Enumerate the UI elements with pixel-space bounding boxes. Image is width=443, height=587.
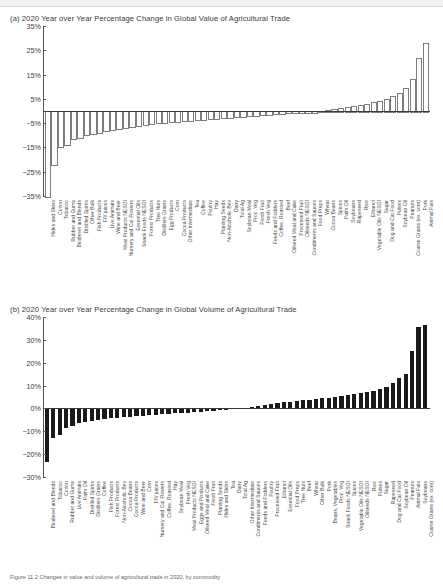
x-tick-label-text: Rapeseed — [356, 200, 362, 223]
x-tick-label-text: Essential Oils — [287, 481, 293, 512]
x-tick-label-text: Palm Oil — [82, 481, 88, 500]
x-tick-label-text: Tree Nuts — [155, 200, 161, 222]
x-tick-label-text: Sugar — [383, 481, 389, 495]
bar — [288, 402, 292, 409]
y-tick-label: 0% — [10, 404, 41, 413]
x-tick-label-text: Total Ag — [242, 481, 248, 499]
chart-a-plot: 35%25%15%5%−5%−15%−25%−35% Hides and Ski… — [10, 26, 430, 281]
bar — [58, 408, 62, 434]
x-tick-label-text: Wine and Beer — [115, 200, 121, 234]
x-tick-label-text: Wine and Beer — [140, 481, 146, 515]
bar — [96, 408, 100, 419]
bar — [391, 383, 395, 408]
y-tick-label: −35% — [10, 192, 41, 201]
bar — [423, 325, 427, 408]
y-tick-mark — [43, 477, 46, 478]
bar — [359, 393, 363, 408]
x-tick-label-text: Feeds and Fodders — [262, 481, 268, 525]
x-tick-label-text: Oilseeds NESOI — [364, 481, 370, 518]
x-tick-label-text: Sugar — [383, 200, 389, 214]
x-tick-label-text: Other Intermediate — [249, 481, 255, 523]
x-tick-label-text: Ethanol — [281, 481, 287, 498]
x-tick-label-text: Non-Alcoholic Bev — [226, 200, 232, 242]
bar — [141, 408, 145, 415]
x-tick-label-text: Distillers Grains — [161, 200, 167, 236]
y-tick-label: 5% — [10, 94, 41, 103]
x-tick-label-text: Food Preps — [317, 200, 323, 226]
bar — [128, 408, 132, 416]
bar — [397, 378, 401, 409]
x-tick-label-text: Rice — [371, 481, 377, 491]
chart-a-axis-area — [44, 26, 430, 196]
bar — [147, 408, 151, 415]
x-tick-label-text: Soybean Oil — [402, 200, 408, 228]
bar — [416, 327, 420, 408]
x-tick-label-text: Condiments and Sauces — [255, 481, 261, 537]
x-tick-label-text: Corn — [174, 200, 180, 211]
x-tick-label-text: Spices — [351, 481, 357, 496]
x-tick-label-text: Oilseed Meal and Cake — [291, 200, 297, 253]
x-tick-label-text: Coffee, Roasted — [166, 481, 172, 518]
x-tick-label-text: Pulses — [396, 200, 402, 215]
y-tick-label: −15% — [10, 143, 41, 152]
x-tick-label-text: Total Ag — [239, 200, 245, 218]
x-tick-label-text: Hides and Skins — [50, 200, 56, 237]
x-tick-label-text: Eggs and Products — [198, 481, 204, 524]
x-tick-label-text: Forest Products — [114, 481, 120, 517]
x-tick-label-text: Pork — [422, 200, 428, 210]
figure-caption: Figure 11.2 Changes in value and volume … — [10, 574, 435, 580]
bar — [339, 396, 343, 408]
y-tick-label: 30% — [10, 335, 41, 344]
bar — [307, 400, 311, 409]
x-tick-label-text: Non-Alcoholic Bev — [121, 481, 127, 523]
y-tick-mark — [43, 317, 46, 318]
x-tick-label-text: Tobacco — [57, 481, 63, 500]
chart-a-zero-line — [44, 111, 430, 112]
y-tick-mark — [43, 147, 46, 148]
y-tick-label: 10% — [10, 381, 41, 390]
chart-b-plot: 40%30%20%10%0%−10%−20%−30% Biodiesel and… — [10, 317, 430, 562]
x-tick-label-text: Other Intermediate — [187, 200, 193, 242]
y-tick-mark — [43, 50, 46, 51]
chart-b-zero-line — [44, 408, 430, 409]
x-tick-label-text: Cocoa Products — [133, 481, 139, 517]
x-tick-label-text: Cocoa Beans — [330, 200, 336, 231]
x-tick-label-text: Fish Products — [96, 200, 102, 231]
y-tick-label: 20% — [10, 358, 41, 367]
x-tick-label-text: Coarse Grains (ex. corn) — [415, 200, 421, 256]
x-tick-label-text: Beef — [285, 200, 291, 210]
y-tick-label: −5% — [10, 119, 41, 128]
x-tick-label-text: Dairy — [233, 200, 239, 212]
bar — [423, 43, 429, 113]
x-tick-label-text: Soybean Meal — [178, 481, 184, 514]
x-tick-label-text: Hides and Skins — [223, 481, 229, 518]
x-tick-label-text: Corn — [146, 481, 152, 492]
bar — [77, 408, 81, 423]
bar — [378, 389, 382, 408]
window-topbar — [0, 0, 443, 7]
x-tick-label-text: Snack Foods NESOI — [345, 481, 351, 528]
x-tick-label-text: Nursery and Cut Flowers — [159, 481, 165, 537]
x-tick-label-text: Planting Seeds — [220, 200, 226, 234]
x-tick-label-text: Condiments and Sauces — [311, 200, 317, 256]
x-tick-label-text: Fresh Fruit — [259, 200, 265, 225]
y-tick-label: −10% — [10, 427, 41, 436]
x-tick-label-text: Biodiesel and Blends — [50, 481, 56, 529]
x-tick-label-text: Forest Products — [148, 200, 154, 236]
x-tick-label-text: Rubber and Gums — [69, 481, 75, 523]
chart-b-axis-area — [44, 317, 430, 477]
x-tick-label-text: Soybeans — [422, 481, 428, 504]
x-tick-label-text: Other Bulk — [89, 200, 95, 224]
x-tick-label-text: Animal Fats — [415, 481, 421, 508]
x-tick-label-text: Coarse Grains (ex. corn) — [428, 481, 434, 537]
bar — [70, 408, 74, 425]
x-tick-label-text: Coffee, Roasted — [278, 200, 284, 237]
bar — [327, 398, 331, 409]
y-tick-label: 35% — [10, 22, 41, 31]
x-tick-label-text: Peanuts — [409, 200, 415, 219]
y-tick-mark — [43, 196, 46, 197]
x-tick-label-text: Hay — [213, 200, 219, 209]
x-tick-label-text: Other Bulk — [319, 481, 325, 505]
x-tick-label-text: Soybean Meal — [246, 200, 252, 233]
chart-b-title: (b) 2020 Year over Year Percentage Chang… — [10, 305, 443, 314]
